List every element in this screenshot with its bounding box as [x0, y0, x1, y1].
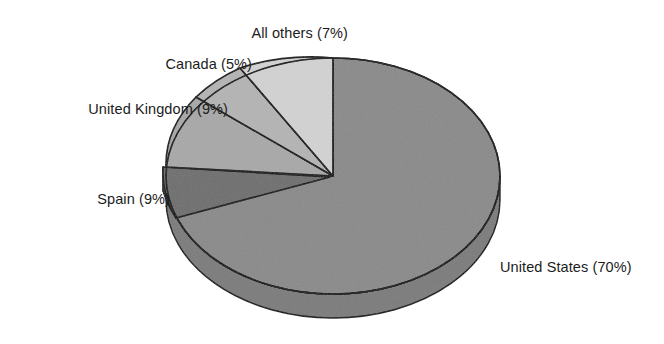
pie-chart: All others (7%) Canada (5%) United Kingd…	[0, 0, 664, 344]
pie-chart-graphic	[0, 0, 664, 344]
slice-label-united-kingdom: United Kingdom (9%)	[32, 102, 228, 118]
slice-label-spain: Spain (9%)	[60, 192, 170, 208]
slice-label-united-states: United States (70%)	[500, 260, 660, 276]
slice-label-all-others: All others (7%)	[196, 26, 348, 42]
slice-label-canada: Canada (5%)	[134, 57, 252, 73]
